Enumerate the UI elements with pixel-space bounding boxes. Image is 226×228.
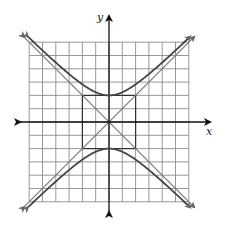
y-axis-label: y — [97, 12, 103, 23]
graph-canvas — [0, 0, 226, 228]
x-axis-label: x — [206, 126, 212, 137]
hyperbola-figure: y x — [0, 0, 226, 228]
